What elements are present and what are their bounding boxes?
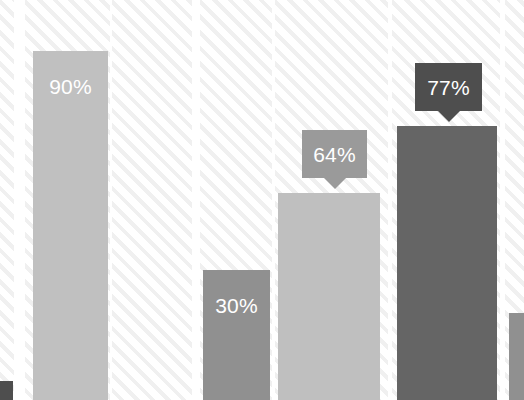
callout-pointer-icon <box>438 111 460 122</box>
bar[interactable] <box>509 313 524 400</box>
bar[interactable]: 30% <box>203 270 270 400</box>
callout-value-label: 77% <box>427 77 470 98</box>
corner-chip <box>0 381 13 400</box>
value-callout[interactable]: 64% <box>302 130 367 178</box>
bar-value-label: 30% <box>203 295 270 316</box>
hatch-band <box>0 0 14 400</box>
bar[interactable] <box>278 193 380 400</box>
bar-value-label: 90% <box>33 76 108 97</box>
value-callout[interactable]: 77% <box>415 63 482 111</box>
hatch-band <box>112 0 192 400</box>
callout-pointer-icon <box>324 178 346 189</box>
callout-value-label: 64% <box>313 144 356 165</box>
bar-chart: 90%30% 64%77% <box>0 0 524 400</box>
bar[interactable] <box>397 126 497 400</box>
bar[interactable]: 90% <box>33 51 108 400</box>
